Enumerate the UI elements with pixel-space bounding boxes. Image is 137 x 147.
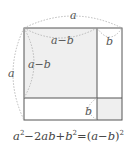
- term-ab: ab: [41, 129, 55, 143]
- arc-left-a: [13, 28, 24, 120]
- op-equals-paren: =(: [77, 129, 91, 143]
- label-top-b: b: [106, 35, 113, 48]
- label-left-a-minus-b: a−b: [28, 58, 51, 71]
- label-top-a: a: [70, 9, 77, 22]
- label-inner-b: b: [85, 105, 92, 118]
- identity-diagram: a a a−b a−b b b: [0, 0, 137, 147]
- term-b: b: [108, 129, 115, 143]
- op-minus: −: [98, 129, 108, 143]
- op-plus: +: [56, 129, 66, 143]
- formula-caption: a2−2ab+b2=(a−b)2: [0, 129, 137, 143]
- label-top-a-minus-b: a−b: [51, 34, 74, 47]
- square-b: [97, 98, 122, 120]
- exp-2: 2: [120, 129, 124, 137]
- label-left-a: a: [8, 67, 15, 80]
- term-b: b: [65, 129, 72, 143]
- term-a: a: [13, 129, 20, 143]
- term-a: a: [91, 129, 98, 143]
- term-minus-2: −2: [24, 129, 41, 143]
